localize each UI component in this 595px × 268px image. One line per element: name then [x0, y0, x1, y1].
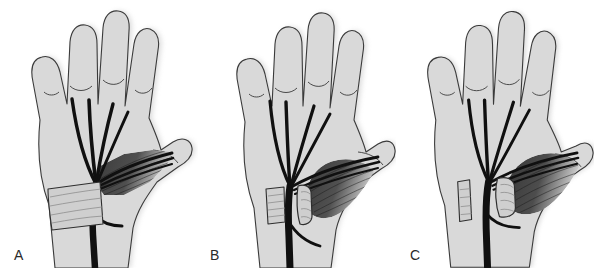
carpal-tunnel-release-figure: A — [0, 0, 595, 268]
carpal-ligament-intact-a — [48, 182, 103, 230]
carpal-ligament-ulnar-stump-b — [266, 187, 285, 224]
panel-c: C — [396, 0, 594, 268]
nerve-trunk-b — [288, 186, 290, 268]
panel-label-c: C — [410, 248, 421, 262]
carpal-ligament-radial-stump-b — [297, 185, 312, 224]
panel-b: B — [198, 0, 396, 268]
panel-label-b: B — [210, 248, 220, 262]
carpal-ligament-ulnar-stump-c — [458, 180, 472, 222]
panel-label-a: A — [14, 248, 24, 262]
carpal-ligament-radial-stump-c — [496, 178, 516, 217]
hand-outline-c — [428, 12, 593, 268]
nerve-trunk-c — [486, 182, 489, 268]
panel-a: A — [0, 0, 198, 268]
